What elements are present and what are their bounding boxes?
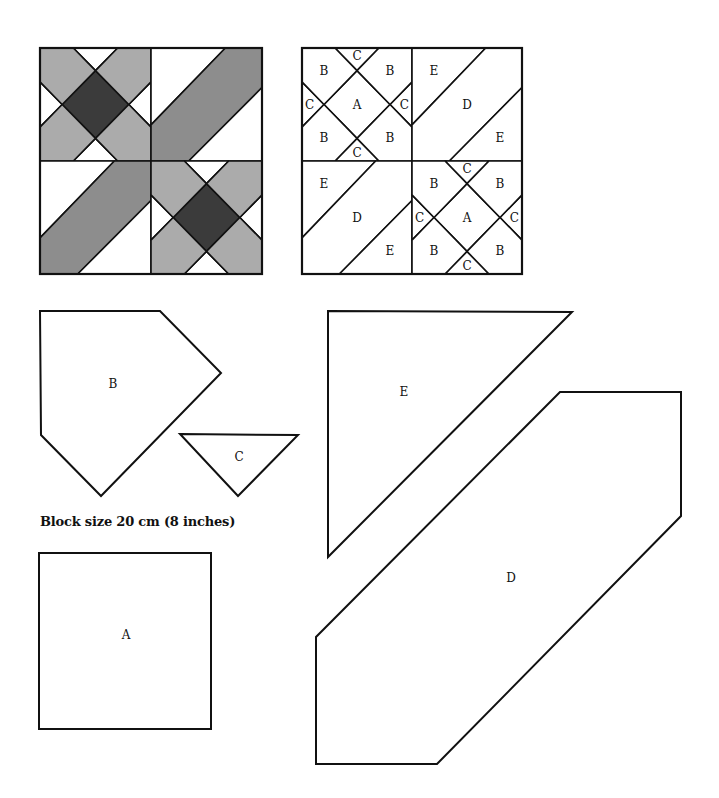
q-top-left-label-a: A [352,98,362,112]
piece-c-label: C [234,450,243,464]
piece-b-label: B [109,377,118,391]
block-size-caption: Block size 20 cm (8 inches) [40,514,235,529]
q-bottom-left-label-d: D [352,211,362,225]
q-bottom-right-label-a: A [462,211,472,225]
q-bottom-right-label-b-tl: B [430,177,439,191]
q-top-right-label-d: D [462,98,472,112]
quilt-diagram: ACCCCBBBBEDEEDEACCCCBBBB B C A E D [0,0,719,798]
piece-d-label: D [506,571,516,585]
q-bottom-right-label-b-br: B [496,244,505,258]
q-top-left-label-c-top: C [352,49,361,63]
q-top-right-label-e2: E [496,131,505,145]
q-top-left-label-b-bl: B [320,131,329,145]
q-bottom-right-label-c-left: C [415,211,424,225]
q-top-left-label-c-bottom: C [352,146,361,160]
labeled-block: ACCCCBBBBEDEEDEACCCCBBBB [302,48,522,274]
q-top-left-label-b-tr: B [386,64,395,78]
template-piece-c: C [180,434,298,496]
q-bottom-left-label-e1: E [320,177,329,191]
piece-e-label: E [400,385,409,399]
piece-a-label: A [121,628,131,642]
q-bottom-left-label-e2: E [386,244,395,258]
q-bottom-right-label-c-right: C [510,211,519,225]
template-piece-a: A [39,553,211,729]
template-piece-b: B [40,311,221,496]
q-bottom-right-label-b-tr: B [496,177,505,191]
q-top-left-label-c-right: C [400,98,409,112]
q-top-right-label-e1: E [430,64,439,78]
q-top-left-label-b-br: B [386,131,395,145]
q-bottom-right-label-b-bl: B [430,244,439,258]
q-bottom-right-label-c-bottom: C [462,259,471,273]
q-bottom-right-label-c-top: C [462,162,471,176]
q-top-left-label-c-left: C [305,98,314,112]
q-top-left-label-b-tl: B [320,64,329,78]
colored-block [40,48,262,274]
